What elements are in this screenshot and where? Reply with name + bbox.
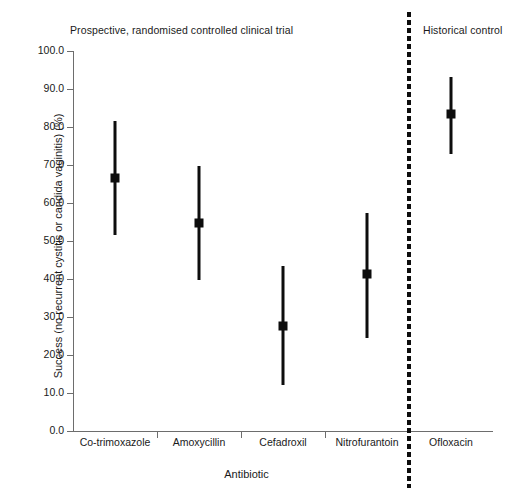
y-axis-tick [67, 431, 73, 432]
y-axis-tick-label: 100.0 [20, 44, 64, 56]
x-axis-category-label: Ofloxacin [429, 436, 473, 448]
y-axis-tick [67, 241, 73, 242]
x-axis-tick [241, 431, 242, 438]
left-panel-title: Prospective, randomised controlled clini… [70, 24, 293, 36]
y-axis-line [73, 51, 74, 431]
forest-plot-chart: Prospective, randomised controlled clini… [0, 0, 513, 499]
y-axis-tick [67, 127, 73, 128]
y-axis-tick [67, 89, 73, 90]
data-point-marker [363, 270, 372, 279]
data-point-marker [447, 110, 456, 119]
data-point-marker [111, 174, 120, 183]
y-axis-tick-label: 90.0 [20, 82, 64, 94]
y-axis-tick [67, 355, 73, 356]
y-axis-tick [67, 317, 73, 318]
y-axis-tick [67, 393, 73, 394]
right-panel-title: Historical control [423, 24, 502, 36]
data-point-marker [279, 321, 288, 330]
y-axis-tick [67, 51, 73, 52]
x-axis-category-label: Co-trimoxazole [80, 436, 151, 448]
x-axis-tick [157, 431, 158, 438]
y-axis-tick-label: 0.0 [20, 424, 64, 436]
x-axis-category-label: Nitrofurantoin [335, 436, 398, 448]
x-axis-line [73, 431, 493, 432]
y-axis-tick [67, 165, 73, 166]
vertical-dashed-divider [407, 12, 411, 488]
x-axis-tick [325, 431, 326, 438]
x-axis-category-label: Amoxycillin [173, 436, 226, 448]
x-axis-category-label: Cefadroxil [259, 436, 306, 448]
x-axis-title: Antibiotic [0, 468, 493, 480]
y-axis-tick [67, 203, 73, 204]
data-point-marker [195, 219, 204, 228]
y-axis-title: Success (no recurrent cystitis or candid… [52, 96, 64, 396]
y-axis-tick [67, 279, 73, 280]
